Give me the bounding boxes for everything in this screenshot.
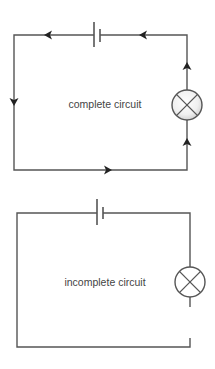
battery-icon bbox=[94, 22, 100, 47]
wire-top-right bbox=[100, 35, 187, 90]
incomplete-circuit-label: incomplete circuit bbox=[64, 276, 145, 288]
lamp-icon bbox=[175, 267, 205, 297]
incomplete-circuit: incomplete circuit bbox=[17, 199, 205, 347]
circuit-diagrams: complete circuit incomplete circuit bbox=[0, 0, 215, 369]
complete-circuit-label: complete circuit bbox=[69, 98, 142, 110]
lamp-icon bbox=[172, 90, 202, 120]
complete-circuit: complete circuit bbox=[10, 22, 203, 175]
battery-icon bbox=[97, 199, 103, 225]
wire-right bbox=[103, 213, 190, 267]
